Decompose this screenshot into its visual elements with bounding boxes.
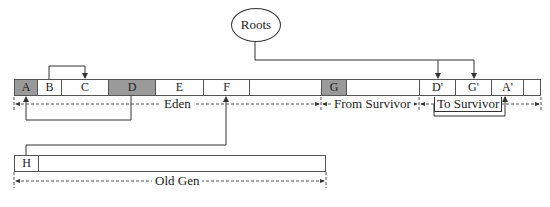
cell-a: A — [14, 79, 37, 96]
cell-g-prime: G' — [455, 79, 491, 96]
cell-empty-eden — [249, 79, 321, 96]
cell-g: G — [321, 79, 346, 96]
cell-d: D — [108, 79, 155, 96]
arrow-d-to-a — [26, 96, 131, 120]
cell-d-prime: D' — [419, 79, 455, 96]
cell-f: F — [203, 79, 249, 96]
cell-c: C — [61, 79, 108, 96]
arrow-b-to-c — [49, 66, 85, 79]
arrow-roots-to-g-prime — [255, 42, 474, 78]
cell-empty-to — [523, 79, 541, 96]
cell-a-prime: A' — [491, 79, 523, 96]
eden-label: Eden — [161, 97, 194, 111]
roots-label: Roots — [241, 17, 271, 33]
cell-empty-from — [346, 79, 419, 96]
old-generation-bar — [14, 155, 326, 172]
roots-node: Roots — [231, 8, 281, 42]
to-survivor-label: To Survivor — [434, 97, 502, 112]
cell-e: E — [155, 79, 203, 96]
cell-b: B — [37, 79, 61, 96]
from-survivor-label: From Survivor — [331, 97, 414, 111]
old-gen-label: Old Gen — [152, 174, 202, 188]
arrow-h-to-f — [26, 97, 226, 155]
cell-h: H — [14, 155, 39, 172]
